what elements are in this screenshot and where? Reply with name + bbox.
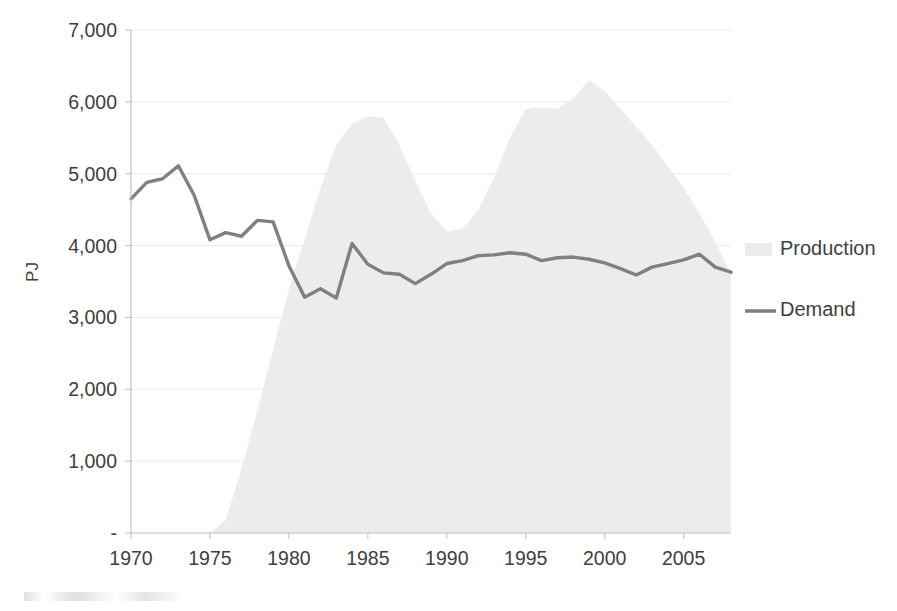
- y-tick-label: 6,000: [68, 91, 117, 113]
- y-tick-label: 1,000: [68, 450, 117, 472]
- x-tickmarks-group: [131, 533, 684, 539]
- x-tick-label: 2005: [662, 547, 706, 569]
- legend-label-production: Production: [780, 237, 876, 259]
- legend-item-production[interactable]: Production: [745, 237, 876, 259]
- x-tick-label: 1975: [188, 547, 232, 569]
- y-tick-label: -: [111, 522, 118, 544]
- chart-container: -1,0002,0003,0004,0005,0006,0007,000 197…: [0, 0, 897, 611]
- legend: Production Demand: [745, 237, 876, 320]
- y-tick-label: 2,000: [68, 378, 117, 400]
- production-demand-area-chart: -1,0002,0003,0004,0005,0006,0007,000 197…: [0, 0, 897, 611]
- x-tick-label: 1995: [504, 547, 548, 569]
- y-axis-title: PJ: [23, 262, 42, 282]
- production-area-path: [131, 80, 731, 533]
- x-tick-label: 1980: [267, 547, 311, 569]
- plot-area-group: [131, 80, 731, 533]
- y-tickmarks-group: [125, 30, 131, 533]
- x-tick-label: 1985: [346, 547, 390, 569]
- y-tick-label: 4,000: [68, 235, 117, 257]
- x-tick-label: 2000: [583, 547, 627, 569]
- y-tick-label: 5,000: [68, 163, 117, 185]
- x-axis-tick-labels: 19701975198019851990199520002005: [109, 547, 705, 569]
- x-tick-label: 1990: [425, 547, 469, 569]
- y-tick-label: 3,000: [68, 306, 117, 328]
- legend-label-demand: Demand: [780, 298, 856, 320]
- production-legend-swatch: [745, 243, 772, 256]
- x-tick-label: 1970: [109, 547, 153, 569]
- y-axis-tick-labels: -1,0002,0003,0004,0005,0006,0007,000: [68, 19, 117, 544]
- y-tick-label: 7,000: [68, 19, 117, 41]
- legend-item-demand[interactable]: Demand: [745, 298, 856, 320]
